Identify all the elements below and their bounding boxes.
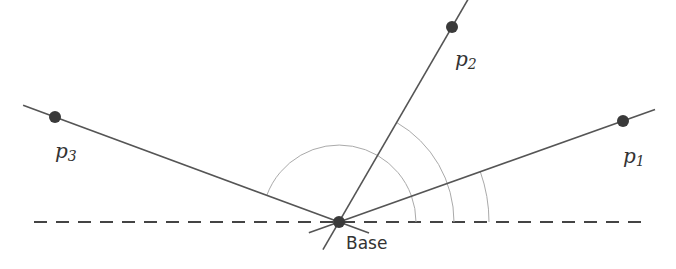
ray-base-to-p2 xyxy=(323,0,469,250)
point-p3-dot xyxy=(49,111,61,123)
base-point-dot xyxy=(333,216,345,228)
ray-base-to-p1 xyxy=(309,110,655,233)
label-p3: p3 xyxy=(55,139,77,164)
label-p2: p2 xyxy=(455,47,477,72)
ray-base-to-p3 xyxy=(23,105,369,233)
angle-arc-p2 xyxy=(397,123,454,223)
point-p2-dot xyxy=(446,21,458,33)
point-p1-dot xyxy=(617,115,629,127)
angle-arc-p1 xyxy=(480,172,489,222)
angle-arc-p3 xyxy=(267,145,416,222)
label-base: Base xyxy=(346,233,387,253)
angle-diagram: p1 p2 p3 Base xyxy=(0,0,676,269)
label-p1: p1 xyxy=(623,144,645,169)
